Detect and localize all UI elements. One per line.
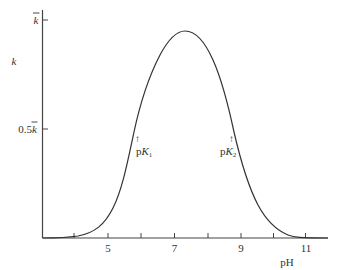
chart: 5 7 9 11 pH k k 0.5k ↑ pK1 ↑ pK2	[0, 0, 342, 270]
rate-curve	[43, 31, 329, 238]
x-tick-label-7: 7	[172, 242, 178, 254]
svg-text:0.5k: 0.5k	[18, 123, 38, 135]
pk2-arrow: ↑	[229, 133, 234, 144]
svg-text:k: k	[34, 14, 40, 26]
x-tick-label-5: 5	[105, 242, 111, 254]
x-tick-label-11: 11	[301, 242, 312, 254]
pk2-annotation: ↑ pK2	[220, 133, 237, 159]
x-tick-label-9: 9	[238, 242, 244, 254]
x-ticks	[74, 233, 306, 238]
y-axis-label: k	[12, 55, 18, 67]
pk1-arrow: ↑	[135, 133, 140, 144]
x-axis-label: pH	[280, 256, 294, 268]
svg-text:pK2: pK2	[220, 145, 237, 159]
y-tick-label-kbar: k	[33, 13, 40, 26]
pk1-annotation: ↑ pK1	[135, 133, 153, 159]
svg-text:pK1: pK1	[136, 145, 153, 159]
y-tick-label-half: 0.5k	[18, 122, 38, 135]
